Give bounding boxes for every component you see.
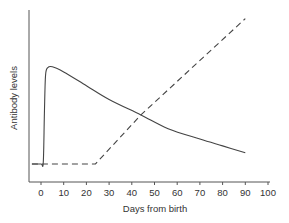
x-tick-label: 30 bbox=[104, 187, 115, 198]
x-tick-label: 70 bbox=[195, 187, 206, 198]
antibody-chart: 0102030405060708090100 Antibody levels D… bbox=[0, 0, 289, 223]
y-axis-label: Antibody levels bbox=[8, 66, 19, 130]
x-tick-label: 90 bbox=[240, 187, 251, 198]
x-tick-label: 10 bbox=[58, 187, 69, 198]
x-tick-label: 60 bbox=[172, 187, 183, 198]
dashed-curve bbox=[32, 19, 245, 164]
x-axis-label: Days from birth bbox=[123, 203, 187, 214]
x-tick-label: 20 bbox=[81, 187, 92, 198]
x-tick-label: 50 bbox=[149, 187, 160, 198]
x-tick-label: 40 bbox=[127, 187, 138, 198]
x-tick-label: 80 bbox=[217, 187, 228, 198]
x-ticks: 0102030405060708090100 bbox=[38, 182, 276, 198]
x-axis: 0102030405060708090100 bbox=[29, 182, 276, 198]
x-tick-label: 0 bbox=[38, 187, 43, 198]
solid-curve bbox=[32, 66, 245, 166]
x-tick-label: 100 bbox=[260, 187, 276, 198]
series-layer bbox=[32, 19, 245, 167]
